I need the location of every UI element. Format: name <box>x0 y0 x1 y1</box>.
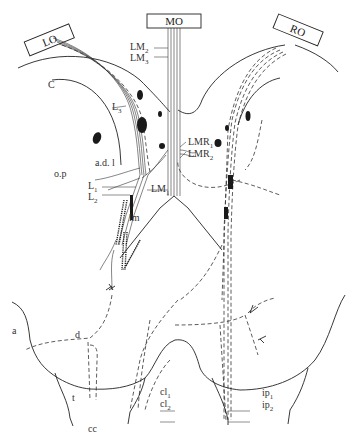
lateral-bundle <box>95 168 148 290</box>
label-d: d <box>75 329 80 340</box>
labels: LM2 LM3 C L3 LMR1 LMR2 a.d. l o.p L1 L2 … <box>12 41 274 434</box>
label-ip2: ip2 <box>262 399 274 413</box>
label-c: C <box>48 79 55 90</box>
label-lmr2: LMR2 <box>188 148 214 162</box>
label-t: t <box>72 392 75 403</box>
ro-box: RO <box>273 14 323 46</box>
label-op: o.p <box>54 168 67 179</box>
lower-dashed-paths <box>25 295 275 420</box>
label-cc: cc <box>88 423 97 434</box>
mo-label: MO <box>165 15 183 27</box>
label-lm1: LM1 <box>151 183 170 197</box>
ro-dashed-bundle <box>178 48 286 420</box>
label-lm: lm <box>129 212 140 223</box>
neuroanatomy-diagram: LO MO RO <box>0 0 355 441</box>
label-adl: a.d. l <box>95 157 115 168</box>
mo-box: MO <box>147 14 201 28</box>
brain-outline-upper <box>18 45 338 165</box>
label-a: a <box>12 325 17 336</box>
label-l3: L3 <box>112 101 122 115</box>
label-cl2: cl2 <box>160 398 171 412</box>
brain-outline-lower <box>12 295 345 426</box>
lo-box: LO <box>24 24 74 56</box>
